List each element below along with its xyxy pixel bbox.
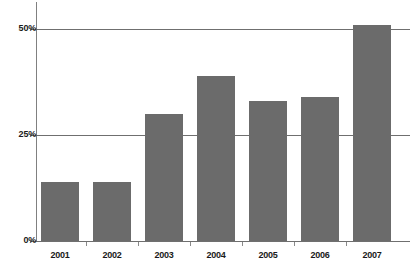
x-axis-label-2002: 2002 (86, 250, 138, 260)
x-axis-label-2007: 2007 (346, 250, 398, 260)
x-axis-label-2005: 2005 (242, 250, 294, 260)
x-axis-label-2003: 2003 (138, 250, 190, 260)
x-axis-label-2001: 2001 (34, 250, 86, 260)
x-tick-2004 (190, 242, 191, 246)
bars-layer (0, 0, 415, 267)
bar-2005 (249, 101, 287, 241)
bar-2001 (41, 182, 79, 241)
bar-2006 (301, 97, 339, 241)
x-tick-2005 (242, 242, 243, 246)
x-tick-2006 (294, 242, 295, 246)
x-tick-2007 (346, 242, 347, 246)
x-tick-2002 (86, 242, 87, 246)
x-axis-label-2006: 2006 (294, 250, 346, 260)
x-tick-2003 (138, 242, 139, 246)
bar-2007 (353, 25, 391, 241)
bar-chart: 50% 25% 0% 2001200220032004200520062007 (0, 0, 415, 267)
bar-2003 (145, 114, 183, 241)
bar-2002 (93, 182, 131, 241)
bar-2004 (197, 76, 235, 241)
x-axis-label-2004: 2004 (190, 250, 242, 260)
